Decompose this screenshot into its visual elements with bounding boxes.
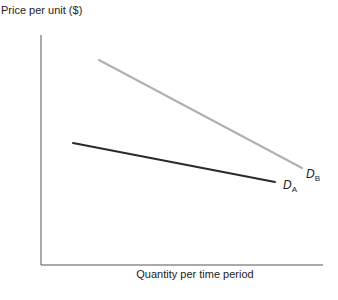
demand-chart: Price per unit ($) DB DA Quantity per ti… [0, 0, 338, 300]
curve-label-da: DA [283, 178, 297, 194]
plot-area [0, 0, 338, 300]
curve-label-db: DB [306, 167, 320, 183]
demand-curve-a [73, 143, 275, 182]
x-axis-label: Quantity per time period [0, 268, 338, 280]
demand-curve-b [99, 60, 302, 168]
